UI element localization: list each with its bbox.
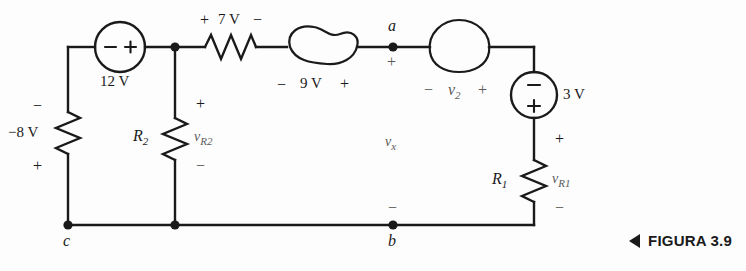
blob-9v-label: 9 V bbox=[300, 76, 322, 91]
resistor-r2-vsub: R2 bbox=[200, 135, 212, 147]
blob-v2-symbol: v2 bbox=[448, 82, 461, 101]
resistor-r2-minus: − bbox=[196, 158, 205, 174]
blob-v2-dome bbox=[430, 20, 490, 72]
resistor-r1-sub: 1 bbox=[502, 178, 508, 190]
resistor-neg8v-zigzag bbox=[56, 112, 80, 154]
node-a-label: a bbox=[388, 18, 396, 34]
resistor-r2-sub: 2 bbox=[143, 135, 149, 147]
blob-9v-plus: + bbox=[340, 76, 349, 92]
resistor-r1-voltage: vR1 bbox=[552, 172, 570, 189]
figure-caption-text: FIGURA 3.9 bbox=[648, 232, 732, 249]
figure-container: 12 V + 7 V − − 9 V + − v2 + 3 V − −8 V +… bbox=[0, 0, 746, 271]
node-c-label: c bbox=[63, 233, 70, 249]
resistor-7v-minus: − bbox=[253, 12, 262, 28]
junction-dot-bottom-r2 bbox=[170, 220, 179, 229]
resistor-r1-minus: − bbox=[555, 200, 564, 216]
blob-v2-plus: + bbox=[478, 82, 487, 98]
junction-dot-node-a bbox=[388, 42, 397, 51]
resistor-neg8v-plus: + bbox=[33, 158, 42, 174]
resistor-r1-vsub: R1 bbox=[558, 177, 570, 189]
resistor-neg8v-label: −8 V bbox=[8, 125, 38, 140]
voltage-source-12v-circle bbox=[95, 22, 145, 72]
resistor-r1-plus: + bbox=[555, 131, 564, 147]
mesh-voltage-sub: x bbox=[391, 140, 396, 152]
junction-dot-top-r2 bbox=[170, 42, 179, 51]
resistor-r2-voltage: vR2 bbox=[194, 130, 212, 147]
blob-9v-bean bbox=[289, 26, 357, 64]
node-b-polarity: − bbox=[388, 200, 397, 216]
resistor-7v-label: 7 V bbox=[218, 12, 240, 27]
source-12v-label: 12 V bbox=[100, 74, 129, 89]
junction-dot-node-b bbox=[388, 220, 397, 229]
resistor-r2-symbol: R2 bbox=[133, 128, 148, 147]
resistor-r1-symbol: R1 bbox=[492, 171, 507, 190]
source-3v-label: 3 V bbox=[563, 87, 585, 102]
resistor-r2-r: R bbox=[133, 127, 143, 144]
resistor-r1-r: R bbox=[492, 170, 502, 187]
resistor-r2-plus: + bbox=[196, 96, 205, 112]
node-b-label: b bbox=[388, 233, 396, 249]
node-a-polarity: + bbox=[387, 54, 396, 70]
blob-v2-minus: − bbox=[424, 82, 433, 98]
resistor-r2-zigzag bbox=[163, 118, 187, 160]
blob-9v-minus: − bbox=[277, 77, 286, 93]
triangle-left-icon bbox=[629, 234, 640, 248]
figure-caption: FIGURA 3.9 bbox=[629, 232, 732, 249]
resistor-neg8v-minus: − bbox=[33, 98, 42, 114]
mesh-voltage-vx: vx bbox=[385, 135, 396, 152]
blob-v2-sub: 2 bbox=[455, 89, 461, 101]
junction-dot-node-c bbox=[63, 220, 72, 229]
resistor-7v-plus: + bbox=[200, 12, 209, 28]
resistor-7v-zigzag bbox=[205, 35, 256, 59]
resistor-r1-zigzag bbox=[522, 160, 546, 202]
circuit-schematic bbox=[0, 0, 746, 271]
